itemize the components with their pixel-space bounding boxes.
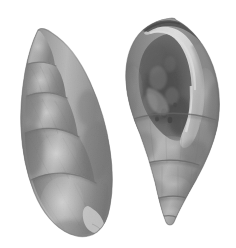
specimen-plate-svg	[0, 0, 236, 248]
specimen-plate	[0, 0, 236, 248]
